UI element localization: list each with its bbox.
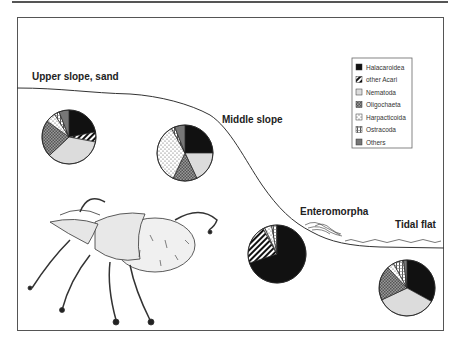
label-upper-slope: Upper slope, sand: [32, 71, 119, 82]
enteromorpha-algae-icon: [305, 222, 342, 236]
legend-swatch: [356, 89, 362, 95]
legend-label: Halacaroidea: [366, 64, 405, 71]
diagram-canvas: Upper slope, sand Middle slope Enteromor…: [0, 0, 461, 345]
legend-label: Nematoda: [366, 89, 396, 96]
label-tidal-flat: Tidal flat: [395, 219, 437, 230]
legend-label: Harpacticoida: [366, 114, 406, 122]
legend-label: Oligochaeta: [366, 101, 401, 109]
legend-swatch: [356, 102, 362, 108]
legend-label: Others: [366, 139, 386, 146]
legend-swatch: [356, 77, 362, 83]
legend-swatch: [356, 114, 362, 120]
mite-illustration-icon: [28, 199, 217, 325]
legend-swatch: [356, 64, 362, 70]
water-line: [345, 240, 441, 243]
legend-label: Ostracoda: [366, 126, 396, 133]
pie-tidal-flat: [379, 260, 435, 316]
pie-enteromorpha: [248, 225, 306, 283]
pie-middle-slope: [157, 125, 213, 181]
label-enteromorpha: Enteromorpha: [300, 206, 369, 217]
label-middle-slope: Middle slope: [222, 114, 283, 125]
legend-swatch: [356, 127, 362, 133]
legend-swatch: [356, 139, 362, 145]
legend: Halacaroideaother AcariNematodaOligochae…: [352, 58, 412, 148]
legend-label: other Acari: [366, 76, 397, 83]
pie-upper-slope: [42, 110, 96, 164]
